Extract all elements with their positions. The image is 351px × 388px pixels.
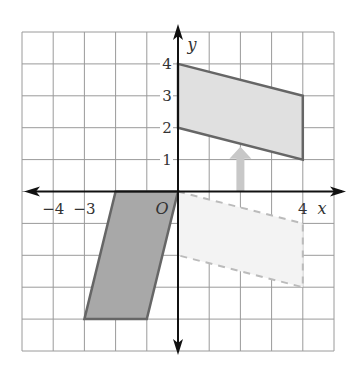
y-tick-label: 1 bbox=[162, 151, 172, 169]
x-tick-label: 4 bbox=[298, 200, 308, 218]
y-axis-label: y bbox=[186, 35, 197, 54]
translate-up-arrow-icon bbox=[229, 147, 251, 192]
x-tick-label: −3 bbox=[73, 200, 95, 218]
x-tick-label: −4 bbox=[42, 200, 64, 218]
coordinate-plane: 1234−4−34Oxy bbox=[0, 0, 351, 388]
x-axis-label: x bbox=[317, 199, 326, 218]
y-tick-label: 3 bbox=[162, 87, 172, 105]
origin-label: O bbox=[155, 199, 168, 218]
y-tick-label: 2 bbox=[162, 119, 172, 137]
y-tick-label: 4 bbox=[162, 55, 172, 73]
